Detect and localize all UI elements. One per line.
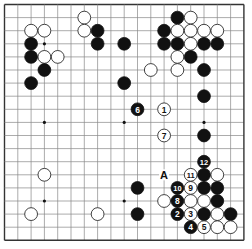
black-stone [184, 51, 197, 64]
move-number: 5 [202, 222, 207, 232]
stone-circle [91, 24, 104, 37]
stone-circle [198, 37, 211, 50]
stone-circle [131, 182, 144, 195]
black-stone [158, 24, 171, 37]
stone-circle [171, 37, 184, 50]
markers-layer: A [159, 169, 169, 181]
go-board: 617121110982345 A [0, 0, 252, 249]
white-stone [211, 24, 224, 37]
black-stone [198, 182, 211, 195]
white-stone [198, 195, 211, 208]
black-stone [198, 64, 211, 77]
move-number: 6 [135, 105, 140, 115]
stone-circle [144, 64, 157, 77]
white-stone [38, 168, 51, 181]
stone-circle [184, 195, 197, 208]
stone-circle [211, 24, 224, 37]
black-stone [171, 11, 184, 24]
stone-circle [198, 90, 211, 103]
star-point [43, 199, 46, 202]
stone-circle [198, 168, 211, 181]
black-stone [131, 182, 144, 195]
black-stone: 10 [171, 182, 184, 195]
white-stone [224, 221, 237, 234]
stone-circle [25, 208, 38, 221]
white-stone: 9 [184, 182, 197, 195]
stone-circle [118, 77, 131, 90]
white-stone [78, 24, 91, 37]
black-stone [25, 51, 38, 64]
star-point [123, 121, 126, 124]
stone-circle [184, 11, 197, 24]
black-stone [118, 37, 131, 50]
stone-circle [78, 11, 91, 24]
stone-circle [224, 221, 237, 234]
stone-circle [158, 24, 171, 37]
white-stone: 7 [158, 129, 171, 142]
stone-circle [211, 221, 224, 234]
black-stone [211, 195, 224, 208]
black-stone [198, 208, 211, 221]
black-stone [224, 208, 237, 221]
white-stone [78, 11, 91, 24]
move-number: 4 [188, 222, 193, 232]
black-stone: 4 [184, 221, 197, 234]
star-point [123, 199, 126, 202]
stone-circle [211, 37, 224, 50]
white-stone [51, 51, 64, 64]
black-stone [198, 129, 211, 142]
white-stone [184, 37, 197, 50]
white-stone [198, 24, 211, 37]
stone-circle [198, 129, 211, 142]
black-stone [211, 37, 224, 50]
white-stone [158, 195, 171, 208]
stone-circle [171, 51, 184, 64]
black-stone [198, 168, 211, 181]
stone-circle [224, 208, 237, 221]
stone-circle [25, 77, 38, 90]
black-stone: 2 [171, 208, 184, 221]
black-stone [158, 37, 171, 50]
stone-circle [25, 37, 38, 50]
white-stone [38, 24, 51, 37]
black-stone [118, 77, 131, 90]
stone-circle [171, 64, 184, 77]
stone-circle [171, 24, 184, 37]
white-stone [211, 221, 224, 234]
white-stone [144, 64, 157, 77]
stone-circle [25, 51, 38, 64]
white-stone: 3 [184, 208, 197, 221]
move-number: 1 [162, 105, 167, 115]
stone-circle [78, 24, 91, 37]
stone-circle [211, 195, 224, 208]
white-stone [171, 24, 184, 37]
white-stone [171, 51, 184, 64]
white-stone [38, 51, 51, 64]
move-number: 10 [173, 184, 181, 193]
stone-circle [211, 208, 224, 221]
white-stone [25, 208, 38, 221]
stone-circle [198, 64, 211, 77]
move-number: 11 [187, 171, 195, 180]
move-number: 8 [175, 196, 180, 206]
black-stone [198, 90, 211, 103]
stone-circle [118, 37, 131, 50]
white-stone [184, 24, 197, 37]
black-stone [25, 77, 38, 90]
stone-circle [158, 195, 171, 208]
white-stone [211, 208, 224, 221]
black-stone [25, 37, 38, 50]
black-stone [91, 24, 104, 37]
stone-circle [211, 168, 224, 181]
black-stone: 12 [198, 155, 211, 168]
white-stone [211, 168, 224, 181]
move-number: 7 [162, 131, 167, 141]
move-number: 12 [200, 158, 208, 167]
black-stone [91, 37, 104, 50]
white-stone [91, 208, 104, 221]
black-stone [198, 37, 211, 50]
star-point [43, 42, 46, 45]
stone-circle [25, 24, 38, 37]
black-stone: 6 [131, 103, 144, 116]
stone-circle [184, 51, 197, 64]
